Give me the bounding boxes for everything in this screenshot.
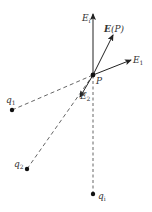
charge-q1 xyxy=(10,108,14,112)
charge-q2 xyxy=(25,167,29,171)
vector-e-p xyxy=(93,35,113,75)
label-q1: q1 xyxy=(6,96,16,106)
charge-qi xyxy=(91,192,95,196)
vector-e-1 xyxy=(93,60,131,75)
label-e-2: E2 xyxy=(80,92,90,102)
label-e-1: E1 xyxy=(133,56,143,66)
label-q2: q2 xyxy=(14,160,24,170)
label-p: P xyxy=(96,77,102,86)
label-e-i: Ei xyxy=(82,14,91,24)
label-e-p: E(P) xyxy=(104,25,124,34)
field-diagram xyxy=(0,0,152,212)
point-p xyxy=(91,73,96,78)
label-qi: qi xyxy=(98,192,106,202)
